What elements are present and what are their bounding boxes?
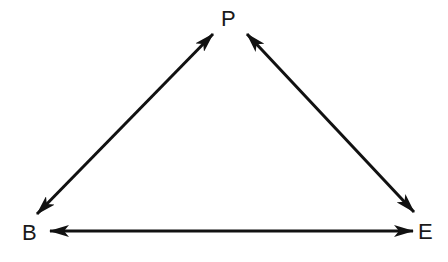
node-label-b: B	[22, 222, 37, 244]
node-label-p: P	[221, 8, 236, 30]
triangle-diagram: P B E	[0, 0, 448, 262]
edge-p-e-arrow	[247, 34, 414, 212]
node-label-e: E	[418, 221, 433, 243]
diagram-canvas	[0, 0, 448, 262]
edge-b-p-arrow	[37, 34, 213, 214]
